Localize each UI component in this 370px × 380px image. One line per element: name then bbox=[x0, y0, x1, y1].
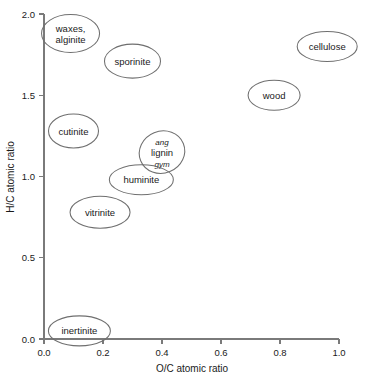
van-krevelen-chart: 0.00.20.40.60.81.0 0.00.51.01.52.0 O/C a… bbox=[0, 0, 370, 380]
x-tick-label: 1.0 bbox=[332, 347, 345, 358]
marker-label-waxes-alginite: alginite bbox=[55, 34, 85, 45]
marker-label-huminite: huminite bbox=[123, 174, 159, 185]
y-tick-label: 1.0 bbox=[22, 171, 35, 182]
marker-label-lignin: gym bbox=[154, 160, 169, 169]
data-point-cellulose: cellulose bbox=[297, 32, 357, 62]
marker-label-waxes-alginite: waxes, bbox=[55, 23, 86, 34]
data-point-waxes-alginite: waxes,alginite bbox=[42, 15, 100, 53]
y-tick-label: 0.0 bbox=[22, 334, 35, 345]
x-tick-label: 0.4 bbox=[155, 347, 168, 358]
axes bbox=[44, 14, 339, 339]
y-tick-label: 2.0 bbox=[22, 9, 35, 20]
x-tick-label: 0.8 bbox=[273, 347, 286, 358]
plot-area: 0.00.20.40.60.81.0 0.00.51.01.52.0 O/C a… bbox=[0, 0, 370, 380]
marker-label-cellulose: cellulose bbox=[309, 41, 346, 52]
marker-label-lignin: lignin bbox=[151, 147, 173, 158]
data-markers: waxes,alginitesporinitecellulosewoodcuti… bbox=[42, 15, 358, 346]
y-tick-label: 1.5 bbox=[22, 90, 35, 101]
y-axis-ticks: 0.00.51.01.52.0 bbox=[22, 9, 44, 345]
data-point-sporinite: sporinite bbox=[105, 44, 161, 78]
data-point-vitrinite: vitrinite bbox=[70, 196, 130, 228]
y-tick-label: 0.5 bbox=[22, 252, 35, 263]
x-axis-ticks: 0.00.20.40.60.81.0 bbox=[37, 339, 345, 358]
marker-label-inertinite: inertinite bbox=[61, 325, 97, 336]
marker-label-vitrinite: vitrinite bbox=[85, 207, 115, 218]
marker-label-wood: wood bbox=[262, 90, 286, 101]
data-point-cutinite: cutinite bbox=[49, 114, 99, 148]
x-tick-label: 0.6 bbox=[214, 347, 227, 358]
data-point-inertinite: inertinite bbox=[48, 316, 110, 346]
data-point-wood: wood bbox=[248, 80, 300, 110]
x-axis-title: O/C atomic ratio bbox=[156, 363, 229, 374]
marker-label-sporinite: sporinite bbox=[115, 56, 151, 67]
y-axis-title: H/C atomic ratio bbox=[5, 141, 16, 213]
x-tick-label: 0.2 bbox=[96, 347, 109, 358]
x-tick-label: 0.0 bbox=[37, 347, 50, 358]
data-point-huminite: huminite bbox=[109, 165, 173, 195]
data-point-lignin: angligningym bbox=[133, 124, 191, 180]
marker-label-cutinite: cutinite bbox=[58, 126, 88, 137]
marker-label-lignin: ang bbox=[155, 138, 169, 147]
